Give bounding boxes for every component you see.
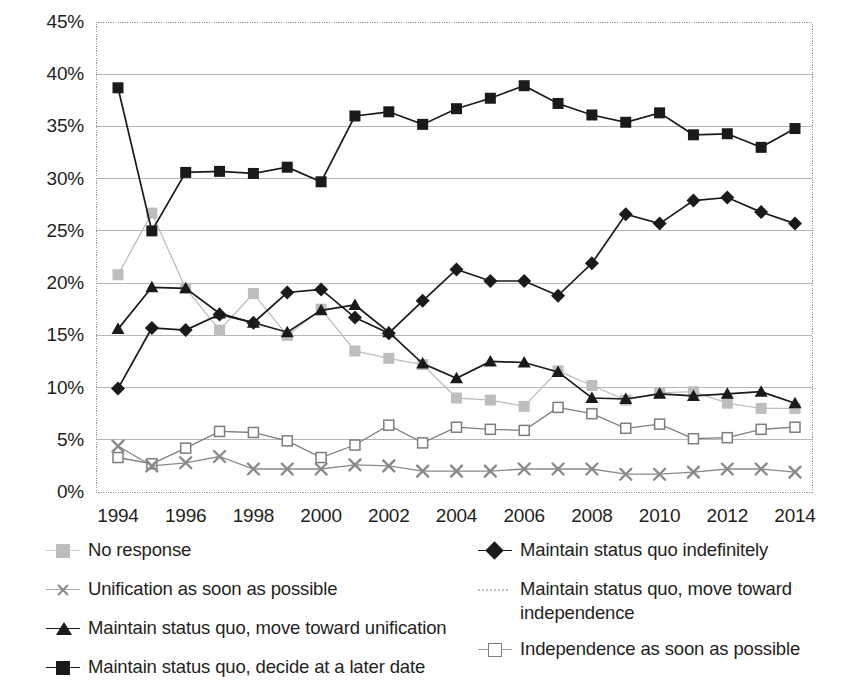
- y-axis-tick-label: 40%: [47, 63, 84, 85]
- legend-label: No response: [88, 538, 191, 562]
- legend-label: Unification as soon as possible: [88, 577, 337, 601]
- x-axis-tick-label: 2000: [300, 505, 341, 527]
- x-axis-tick-label: 1994: [97, 505, 138, 527]
- y-axis-tick-label: 45%: [47, 11, 84, 33]
- x-axis-tick-label: 2008: [571, 505, 612, 527]
- legend-label: Maintain status quo, decide at a later d…: [88, 655, 425, 679]
- legend-item-no-response[interactable]: No response: [46, 538, 476, 564]
- legend-column-right: Maintain status quo indefinitely Maintai…: [478, 538, 838, 676]
- series-unification-as-soon-as-possible: [113, 441, 801, 480]
- y-axis-tick-label: 25%: [47, 220, 84, 242]
- x-marker-icon: [46, 579, 80, 601]
- x-axis-tick-label: 2010: [639, 505, 680, 527]
- legend-label: Maintain status quo indefinitely: [520, 538, 768, 562]
- legend-item-unification-asap[interactable]: Unification as soon as possible: [46, 577, 476, 603]
- y-axis: 0%5%10%15%20%25%30%35%40%45%: [0, 0, 84, 520]
- x-axis-tick-label: 1998: [233, 505, 274, 527]
- square-filled-black-icon: [46, 657, 80, 679]
- y-axis-tick-label: 35%: [47, 115, 84, 137]
- legend-label: Independence as soon as possible: [520, 637, 800, 661]
- y-axis-tick-label: 30%: [47, 168, 84, 190]
- triangle-filled-icon: [46, 618, 80, 640]
- legend-label: Maintain status quo, move toward unifica…: [88, 616, 446, 640]
- dotted-line-icon: [478, 579, 512, 601]
- legend-label: Maintain status quo, move toward indepen…: [520, 577, 838, 624]
- legend-item-status-quo-indefinitely[interactable]: Maintain status quo indefinitely: [478, 538, 838, 564]
- y-axis-tick-label: 10%: [47, 377, 84, 399]
- y-axis-tick-label: 20%: [47, 272, 84, 294]
- series-maintain-status-quo-indefinitely: [111, 190, 802, 395]
- legend-item-status-quo-decide-later[interactable]: Maintain status quo, decide at a later d…: [46, 655, 476, 681]
- chart-legend: No response Unification as soon as possi…: [0, 538, 844, 693]
- legend-item-status-quo-toward-unification[interactable]: Maintain status quo, move toward unifica…: [46, 616, 476, 642]
- x-axis-tick-label: 2006: [503, 505, 544, 527]
- series-maintain-status-quo-decide-at-a-later-date: [113, 80, 801, 236]
- x-axis-tick-label: 2002: [368, 505, 409, 527]
- diamond-filled-icon: [478, 540, 512, 562]
- series-no-response: [113, 208, 801, 414]
- x-axis-tick-label: 2012: [707, 505, 748, 527]
- y-axis-tick-label: 5%: [57, 429, 84, 451]
- square-filled-gray-icon: [46, 540, 80, 562]
- y-axis-tick-label: 15%: [47, 324, 84, 346]
- x-axis-tick-label: 1996: [165, 505, 206, 527]
- legend-column-left: No response Unification as soon as possi…: [46, 538, 476, 693]
- legend-item-status-quo-toward-independence[interactable]: Maintain status quo, move toward indepen…: [478, 577, 838, 624]
- legend-item-independence-asap[interactable]: Independence as soon as possible: [478, 637, 838, 663]
- y-axis-tick-label: 0%: [57, 481, 84, 503]
- chart-container: 0%5%10%15%20%25%30%35%40%45% 19941996199…: [0, 0, 844, 693]
- x-axis-tick-label: 2014: [774, 505, 815, 527]
- x-axis-tick-label: 2004: [436, 505, 477, 527]
- square-open-icon: [478, 639, 512, 661]
- series-independence-as-soon-as-possible: [113, 402, 800, 468]
- series-maintain-status-quo-move-toward-unification: [112, 281, 802, 408]
